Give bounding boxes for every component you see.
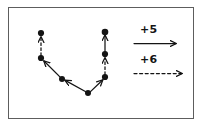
edge-n3-n2 xyxy=(44,61,60,77)
data-point xyxy=(59,76,65,82)
figure-canvas: +5 +6 xyxy=(0,0,205,131)
data-point xyxy=(38,30,44,36)
node-group xyxy=(38,29,108,96)
legend-label-plus-six: +6 xyxy=(140,53,157,66)
data-point xyxy=(38,55,44,61)
legend-label-plus-five: +5 xyxy=(140,23,157,36)
data-point xyxy=(102,29,109,36)
data-point xyxy=(85,90,91,96)
data-point xyxy=(102,51,108,57)
edge-n4-n3 xyxy=(65,80,86,91)
edge-n4-n5 xyxy=(91,80,103,92)
diagram-svg xyxy=(0,0,205,131)
data-point xyxy=(102,74,108,80)
